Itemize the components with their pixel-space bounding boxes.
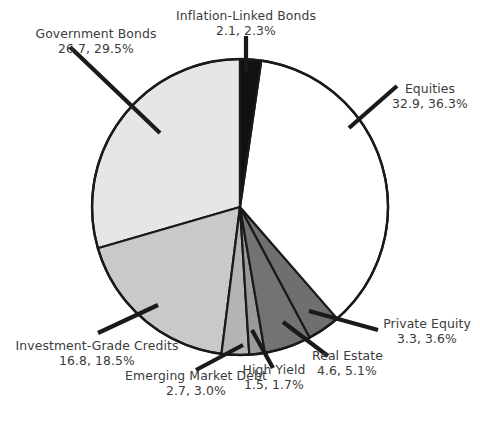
label-equities: Equities 32.9, 36.3% bbox=[380, 81, 480, 111]
label-equities-value: 32.9, 36.3% bbox=[380, 96, 480, 111]
label-emerging-market-debt: Emerging Market Debt 2.7, 3.0% bbox=[113, 368, 279, 398]
label-real-estate: Real Estate 4.6, 5.1% bbox=[312, 348, 382, 378]
label-inflation-linked-bonds-name: Inflation-Linked Bonds bbox=[146, 8, 346, 23]
label-private-equity-name: Private Equity bbox=[374, 316, 480, 331]
pie-slices bbox=[92, 59, 388, 355]
label-investment-grade-credits-name: Investment-Grade Credits bbox=[8, 338, 186, 353]
label-government-bonds-value: 26.7, 29.5% bbox=[6, 41, 186, 56]
label-investment-grade-credits: Investment-Grade Credits 16.8, 18.5% bbox=[8, 338, 186, 368]
label-private-equity-value: 3.3, 3.6% bbox=[374, 331, 480, 346]
label-government-bonds: Government Bonds 26.7, 29.5% bbox=[6, 26, 186, 56]
label-government-bonds-name: Government Bonds bbox=[6, 26, 186, 41]
label-real-estate-value: 4.6, 5.1% bbox=[312, 363, 382, 378]
label-real-estate-name: Real Estate bbox=[312, 348, 382, 363]
label-investment-grade-credits-value: 16.8, 18.5% bbox=[8, 353, 186, 368]
label-emerging-market-debt-name: Emerging Market Debt bbox=[113, 368, 279, 383]
leader-line-government-bonds bbox=[70, 47, 160, 133]
label-private-equity: Private Equity 3.3, 3.6% bbox=[374, 316, 480, 346]
label-equities-name: Equities bbox=[380, 81, 480, 96]
label-emerging-market-debt-value: 2.7, 3.0% bbox=[113, 383, 279, 398]
pie-chart: Inflation-Linked Bonds 2.1, 2.3% Governm… bbox=[0, 0, 480, 422]
